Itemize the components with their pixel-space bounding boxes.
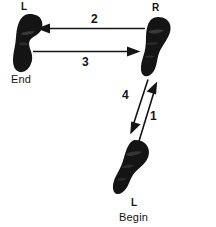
arrow-4-number-label: 4 [122, 89, 129, 101]
foot-left-end-terminus-label: End [11, 74, 31, 85]
arrow-1-number-label: 1 [150, 110, 157, 122]
arrow-2-number-label: 2 [91, 13, 98, 25]
arrow-4-shape [130, 80, 148, 135]
foot-right-shape [141, 17, 171, 76]
foot-left-begin-terminus-label: Begin [119, 212, 148, 223]
foot-right-side-label: R [152, 3, 159, 13]
foot-left-end-side-label: L [21, 2, 27, 12]
foot-left-begin-shape [113, 140, 149, 194]
foot-left-begin-side-label: L [131, 198, 137, 208]
footstep-diagram-canvas [0, 0, 216, 227]
foot-left-end-shape [13, 14, 42, 72]
footstep-diagram: L End R L Begin 1 2 3 4 [0, 0, 216, 227]
arrow-3-number-label: 3 [82, 56, 89, 68]
